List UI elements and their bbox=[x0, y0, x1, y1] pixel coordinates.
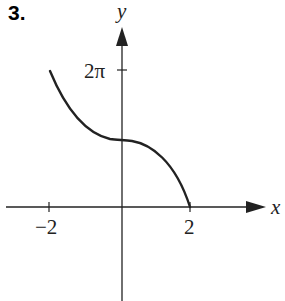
x-tick-label-neg2: −2 bbox=[35, 215, 57, 239]
graph: 3. x y −2 2 2π bbox=[0, 0, 285, 301]
figure-number: 3. bbox=[8, 1, 26, 24]
x-tick-label-2: 2 bbox=[184, 215, 195, 239]
y-axis-label: y bbox=[115, 0, 127, 23]
function-curve bbox=[50, 71, 190, 207]
x-axis-arrow-icon bbox=[246, 201, 266, 213]
y-axis-arrow-icon bbox=[116, 27, 128, 46]
x-axis-label: x bbox=[270, 195, 281, 219]
y-tick-label-2pi: 2π bbox=[84, 59, 106, 83]
